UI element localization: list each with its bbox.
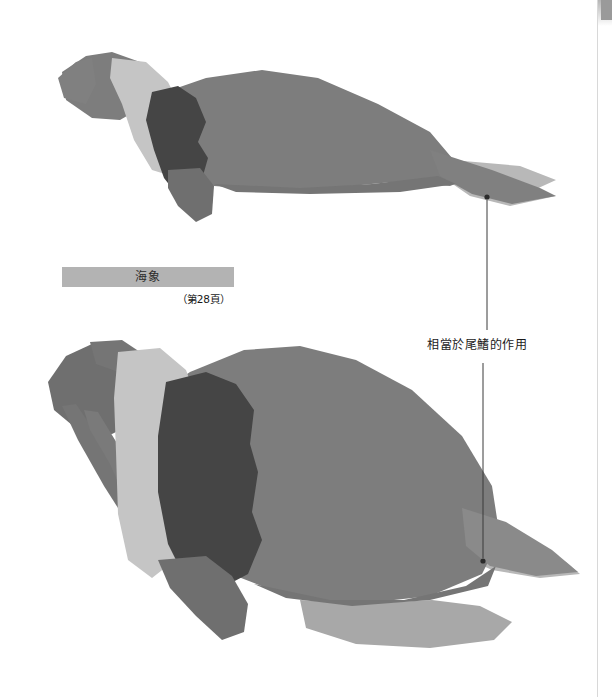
- figure-walrus-upright-lower: [48, 340, 580, 648]
- caption-bar: 海象: [62, 267, 234, 287]
- page-edge-line: [597, 0, 598, 697]
- caption-page-reference: （第28頁）: [62, 291, 234, 306]
- annotation-label-tail-function: 相當於尾鰭的作用: [427, 335, 527, 352]
- page-corner-mark: [601, 0, 612, 20]
- lower-hind-flipper-pale: [300, 600, 512, 648]
- leader-dot-upper: [484, 194, 489, 199]
- page-canvas: 海象 （第28頁） 相當於尾鰭的作用: [0, 0, 612, 697]
- figure-walrus-swimming-upper: [58, 52, 556, 222]
- caption-title: 海象: [135, 267, 161, 287]
- leader-dot-lower: [480, 558, 485, 563]
- figure-caption-block: 海象 （第28頁）: [62, 267, 234, 306]
